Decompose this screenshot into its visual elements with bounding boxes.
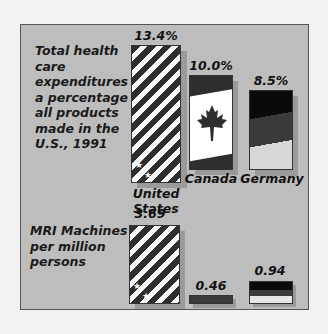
value-label-germany: 8.5% <box>241 73 301 88</box>
category-label-canada: Canada <box>181 171 241 186</box>
bar-canada-expenditure <box>189 75 233 170</box>
value-label-canada: 10.0% <box>181 58 241 73</box>
star-icon: ★ <box>135 161 143 170</box>
value-label-canada-mri: 0.46 <box>181 278 241 293</box>
desc-line: per million <box>30 239 127 255</box>
bar-germany-expenditure <box>249 90 293 170</box>
maple-leaf-icon <box>196 103 228 143</box>
label-line: United <box>126 186 186 201</box>
value-label-us-mri: 3.69 <box>120 206 180 221</box>
bar-us-mri: ★ ★ <box>129 225 180 304</box>
chart-title-mri: MRI Machines per million persons <box>30 223 127 270</box>
bar-canada-mri <box>189 295 233 304</box>
star-icon: ★ <box>133 282 141 291</box>
desc-line: MRI Machines <box>30 223 127 239</box>
desc-line: persons <box>30 254 127 270</box>
category-label-germany: Germany <box>240 171 304 186</box>
bar-germany-mri <box>249 281 293 304</box>
bar-us-expenditure: ★ ★ <box>131 45 181 183</box>
value-label-us: 13.4% <box>126 28 186 43</box>
star-icon: ★ <box>144 171 152 180</box>
flag-band <box>189 75 233 97</box>
star-icon: ★ <box>142 292 150 301</box>
value-label-germany-mri: 0.94 <box>240 263 300 278</box>
flag-band <box>189 152 233 170</box>
